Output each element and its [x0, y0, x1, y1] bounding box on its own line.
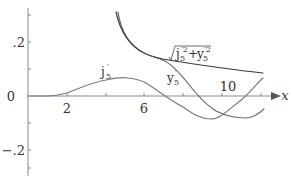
svg-text:5: 5 [106, 72, 111, 81]
label-j5-prime: j 5 ′ [99, 62, 111, 81]
x-tick-label: 6 [140, 101, 148, 116]
chart-figure: .2 0 −.2 2 6 10 x j 5 ′ y 5 ′ j 5 ′2 + y… [0, 0, 292, 179]
svg-text:5: 5 [203, 54, 208, 63]
svg-text:j: j [99, 65, 105, 79]
y-tick-label: 0 [7, 89, 15, 104]
svg-text:5: 5 [174, 78, 179, 87]
x-tick-label: 2 [63, 101, 71, 116]
curve-y5-prime [163, 60, 264, 118]
svg-text:′: ′ [107, 62, 109, 71]
svg-text:j: j [174, 47, 180, 61]
svg-text:5: 5 [180, 54, 185, 63]
label-envelope: j 5 ′2 + y 5 ′2 [169, 45, 211, 63]
x-axis-arrow-icon [271, 92, 281, 100]
svg-text:y: y [166, 71, 174, 85]
y-tick-label: −.2 [2, 143, 25, 158]
x-axis-label: x [281, 88, 289, 103]
curve-envelope [116, 12, 263, 73]
svg-text:′: ′ [175, 68, 177, 77]
x-tick-label: 10 [220, 79, 237, 94]
svg-text:′2: ′2 [204, 45, 211, 54]
y-tick-label: .2 [13, 35, 25, 50]
svg-text:′2: ′2 [181, 45, 188, 54]
